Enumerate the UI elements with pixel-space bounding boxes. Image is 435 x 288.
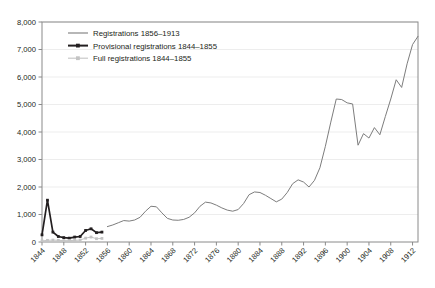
x-axis-tick-label: 1884	[247, 246, 265, 264]
x-axis-tick-label: 1872	[181, 246, 199, 264]
x-axis-tick-label: 1848	[50, 246, 68, 264]
x-axis-tick-label: 1888	[268, 246, 286, 264]
x-axis-tick-label: 1912	[399, 246, 417, 264]
legend-label-0: Registrations 1856–1913	[93, 29, 180, 38]
series-marker	[52, 239, 55, 242]
series-marker	[46, 199, 49, 202]
series-marker	[52, 231, 55, 234]
legend-marker-1	[76, 44, 80, 48]
y-axis-tick-label: 5,000	[17, 100, 36, 109]
series-marker	[90, 227, 93, 230]
line-chart: 01,0002,0003,0004,0005,0006,0007,0008,00…	[0, 0, 435, 288]
series-marker	[46, 239, 49, 242]
series-marker	[73, 239, 76, 242]
series-marker	[90, 236, 93, 239]
series-marker	[62, 239, 65, 242]
series-marker	[84, 229, 87, 232]
legend-marker-2	[76, 56, 80, 60]
series-marker	[41, 240, 44, 243]
legend-label-1: Provisional registrations 1844–1855	[93, 42, 218, 51]
series-marker	[68, 239, 71, 242]
series-marker	[62, 236, 65, 239]
series-line-0	[107, 36, 418, 226]
chart-container: 01,0002,0003,0004,0005,0006,0007,0008,00…	[0, 0, 435, 288]
series-marker	[101, 237, 104, 240]
x-axis-tick-label: 1892	[290, 246, 308, 264]
y-axis-tick-label: 4,000	[17, 128, 36, 137]
series-marker	[79, 235, 82, 238]
x-axis-tick-label: 1896	[312, 246, 330, 264]
series-marker	[95, 237, 98, 240]
series-marker	[101, 231, 104, 234]
series-marker	[84, 237, 87, 240]
series-marker	[57, 239, 60, 242]
y-axis-tick-label: 8,000	[17, 18, 36, 27]
x-axis-tick-label: 1860	[116, 246, 134, 264]
y-axis-tick-label: 6,000	[17, 73, 36, 82]
x-axis-tick-label: 1852	[72, 246, 90, 264]
series-line-1	[42, 200, 102, 238]
x-axis-tick-label: 1880	[225, 246, 243, 264]
series-marker	[95, 231, 98, 234]
series-marker	[73, 236, 76, 239]
series-marker	[68, 237, 71, 240]
y-axis-tick-label: 7,000	[17, 45, 36, 54]
y-axis-tick-label: 2,000	[17, 183, 36, 192]
y-axis-tick-label: 3,000	[17, 155, 36, 164]
series-marker	[41, 233, 44, 236]
x-axis-tick-label: 1868	[159, 246, 177, 264]
x-axis-tick-label: 1908	[377, 246, 395, 264]
x-axis-tick-label: 1904	[356, 246, 374, 264]
y-axis-tick-label: 1,000	[17, 210, 36, 219]
series-marker	[79, 239, 82, 242]
x-axis-tick-label: 1900	[334, 246, 352, 264]
x-axis-tick-label: 1864	[138, 246, 156, 264]
x-axis-tick-label: 1876	[203, 246, 221, 264]
y-axis-tick-label: 0	[32, 238, 36, 247]
series-marker	[57, 235, 60, 238]
x-axis-tick-label: 1856	[94, 246, 112, 264]
x-axis-tick-label: 1844	[29, 246, 47, 264]
legend-label-2: Full registrations 1844–1855	[93, 54, 192, 63]
